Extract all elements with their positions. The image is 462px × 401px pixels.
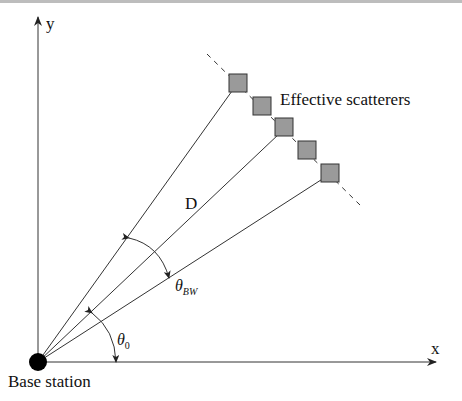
- scatterer-1: [229, 74, 247, 92]
- elevation-symbol: θ: [117, 331, 125, 348]
- scatterer-3: [275, 118, 293, 136]
- scatterer-2: [253, 97, 271, 115]
- elevation-subscript: 0: [125, 340, 130, 351]
- beamwidth-label: θBW: [175, 277, 197, 297]
- scatterer-5: [321, 164, 339, 182]
- y-axis-label: y: [46, 14, 55, 34]
- base-station-node: [29, 353, 47, 371]
- diagram-canvas: [0, 0, 462, 401]
- beamwidth-subscript: BW: [183, 286, 197, 297]
- base-station-label: Base station: [8, 372, 91, 392]
- elevation-arc: [92, 313, 116, 362]
- beamwidth-symbol: θ: [175, 277, 183, 294]
- distance-label: D: [185, 194, 197, 214]
- ray-center: [38, 133, 280, 362]
- ray-lower: [38, 178, 324, 362]
- elevation-label: θ0: [117, 331, 130, 351]
- scatterers-label: Effective scatterers: [280, 90, 410, 110]
- ray-upper: [38, 91, 232, 362]
- scatterer-4: [298, 141, 316, 159]
- x-axis-label: x: [431, 339, 440, 359]
